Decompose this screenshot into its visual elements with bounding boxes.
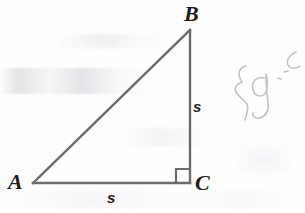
geometry-figure-canvas: A B C s s — [0, 0, 305, 213]
side-label-ac: s — [107, 190, 115, 205]
pencil-annotation — [222, 34, 302, 124]
side-AB-line — [33, 30, 190, 183]
vertex-label-b: B — [184, 3, 199, 25]
triangle-outline — [33, 30, 190, 183]
vertex-label-c: C — [195, 172, 210, 194]
vertex-label-a: A — [8, 171, 23, 193]
side-label-bc: s — [193, 99, 201, 114]
right-angle-marker-icon — [176, 169, 190, 183]
